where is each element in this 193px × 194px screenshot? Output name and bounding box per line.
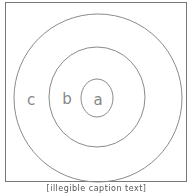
figure-caption: [illegible caption text] — [0, 184, 193, 193]
label-c: c — [27, 93, 35, 108]
label-a: a — [93, 93, 102, 108]
label-b: b — [62, 92, 72, 107]
